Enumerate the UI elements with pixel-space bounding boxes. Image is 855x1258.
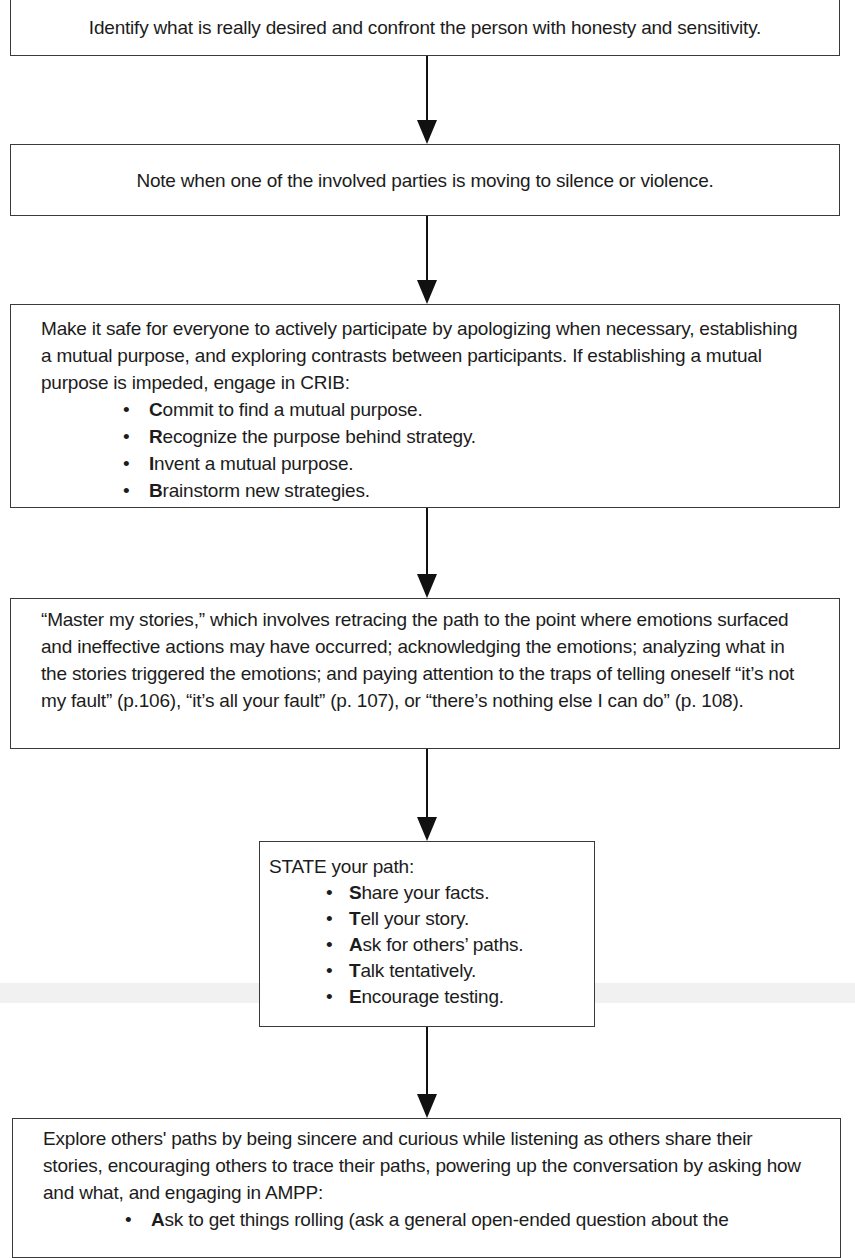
bullet-icon: •	[123, 423, 129, 450]
bullet-icon: •	[326, 906, 332, 932]
bullet-icon: •	[123, 396, 129, 423]
arrow-down-icon	[417, 56, 437, 144]
arrow-down-icon	[417, 216, 437, 304]
bullet-icon: •	[326, 880, 332, 906]
bullet-icon: •	[326, 958, 332, 984]
bullet-icon: •	[326, 932, 332, 958]
ampp-list: •Ask to get things rolling (ask a genera…	[43, 1206, 810, 1233]
state-item-share: •Share your facts.	[269, 880, 585, 906]
state-item-ask: •Ask for others’ paths.	[269, 932, 585, 958]
state-item-encourage: •Encourage testing.	[269, 984, 585, 1010]
flow-step-state-your-path: STATE your path: •Share your facts. •Tel…	[259, 841, 595, 1027]
bullet-icon: •	[326, 984, 332, 1010]
state-item-tell: •Tell your story.	[269, 906, 585, 932]
arrow-down-icon	[417, 1027, 437, 1118]
bullet-icon: •	[125, 1206, 131, 1233]
flow-step-master-my-stories: “Master my stories,” which involves retr…	[10, 598, 840, 749]
state-item-talk: •Talk tentatively.	[269, 958, 585, 984]
ampp-item-ask: •Ask to get things rolling (ask a genera…	[43, 1206, 810, 1233]
step-text: Explore others' paths by being sincere a…	[43, 1125, 810, 1206]
arrow-down-icon	[417, 749, 437, 841]
crib-item-commit: •Commit to find a mutual purpose.	[41, 396, 809, 423]
crib-item-brainstorm: •Brainstorm new strategies.	[41, 477, 809, 504]
flow-step-note-silence-violence: Note when one of the involved parties is…	[10, 144, 840, 216]
step-text: STATE your path:	[269, 854, 585, 880]
arrow-down-icon	[417, 508, 437, 598]
crib-item-recognize: •Recognize the purpose behind strategy.	[41, 423, 809, 450]
step-text: Make it safe for everyone to actively pa…	[41, 315, 809, 396]
state-list: •Share your facts. •Tell your story. •As…	[269, 880, 585, 1010]
flow-step-identify-desire: Identify what is really desired and conf…	[10, 0, 840, 56]
flow-step-make-it-safe: Make it safe for everyone to actively pa…	[10, 304, 840, 508]
bullet-icon: •	[123, 450, 129, 477]
step-text: Note when one of the involved parties is…	[136, 167, 713, 194]
crib-item-invent: •Invent a mutual purpose.	[41, 450, 809, 477]
bullet-icon: •	[123, 477, 129, 504]
step-text: Identify what is really desired and conf…	[89, 14, 761, 41]
flow-step-explore-others-paths: Explore others' paths by being sincere a…	[12, 1118, 841, 1258]
crib-list: •Commit to find a mutual purpose. •Recog…	[41, 396, 809, 504]
step-text: “Master my stories,” which involves retr…	[41, 606, 809, 714]
